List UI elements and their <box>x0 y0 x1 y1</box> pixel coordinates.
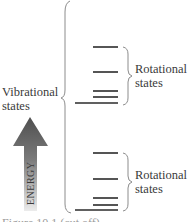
energy-level-diagram: ENERGY Vibrational states Rotational sta… <box>0 0 194 222</box>
lower-rotational-label-line2: states <box>135 182 163 196</box>
upper-rotational-brace <box>123 47 132 105</box>
energy-label: ENERGY <box>25 161 36 205</box>
lower-rotational-brace <box>123 153 132 211</box>
lower-rotational-levels <box>75 153 118 210</box>
upper-rotational-label-line1: Rotational <box>135 62 187 76</box>
lower-rotational-label-line1: Rotational <box>135 168 187 182</box>
figure-caption: Figure 10.1 (cut off) <box>2 216 100 222</box>
upper-rotational-levels <box>75 47 118 103</box>
upper-rotational-label-line2: states <box>135 76 163 90</box>
vibrational-label-line1: Vibrational <box>2 85 58 99</box>
vibrational-label-line2: states <box>2 99 30 113</box>
vibrational-brace <box>61 1 71 213</box>
